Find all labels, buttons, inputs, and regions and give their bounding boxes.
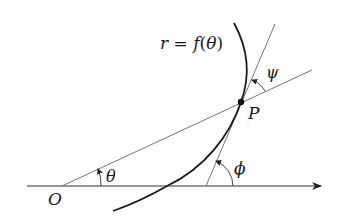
point-p-label: P: [247, 103, 260, 123]
psi-label: ψ: [266, 63, 279, 82]
phi-label: ϕ: [234, 158, 246, 178]
polar-diagram: r = f(θ) P O θ ϕ ψ: [0, 0, 344, 220]
theta-angle-arc: [98, 169, 101, 186]
phi-angle-arc: [216, 161, 233, 186]
diagram-svg: r = f(θ) P O θ ϕ ψ: [0, 0, 344, 220]
origin-label: O: [48, 189, 62, 209]
curve-label: r = f(θ): [160, 33, 223, 53]
point-p-dot: [238, 99, 244, 105]
theta-label: θ: [106, 167, 116, 186]
psi-angle-arc: [252, 80, 265, 91]
radius-line: [62, 70, 312, 186]
